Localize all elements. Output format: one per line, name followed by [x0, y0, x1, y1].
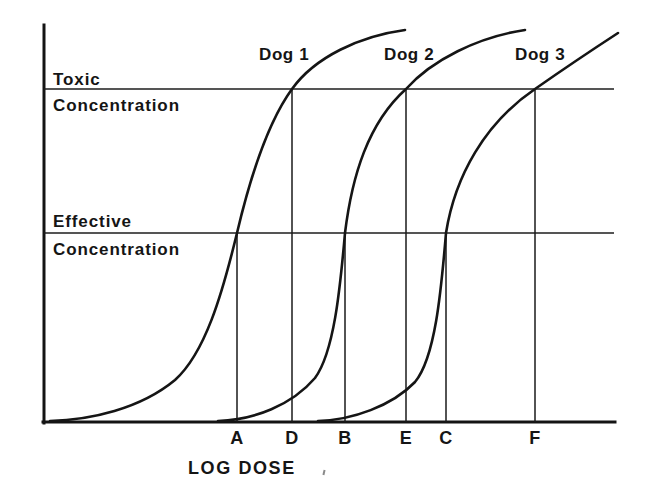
tick-label-e: E — [400, 428, 413, 449]
tick-label-c: C — [439, 428, 453, 449]
tick-label-d: D — [285, 428, 299, 449]
curve-label-dog-1: Dog 1 — [259, 45, 309, 65]
tick-label-b: B — [338, 428, 352, 449]
tick-label-a: A — [230, 428, 244, 449]
tick-label-f: F — [529, 428, 541, 449]
effective-label-line2: Concentration — [53, 240, 180, 260]
curve-label-dog-3: Dog 3 — [515, 45, 565, 65]
toxic-label-line1: Toxic — [53, 70, 101, 90]
effective-label-line1: Effective — [53, 212, 132, 232]
curve-label-dog-2: Dog 2 — [384, 45, 434, 65]
toxic-label-line2: Concentration — [53, 96, 180, 116]
x-axis-title: LOG DOSE — [188, 458, 296, 479]
curve-dog-3 — [318, 33, 618, 421]
dose-response-figure: Toxic Concentration Effective Concentrat… — [0, 0, 651, 501]
